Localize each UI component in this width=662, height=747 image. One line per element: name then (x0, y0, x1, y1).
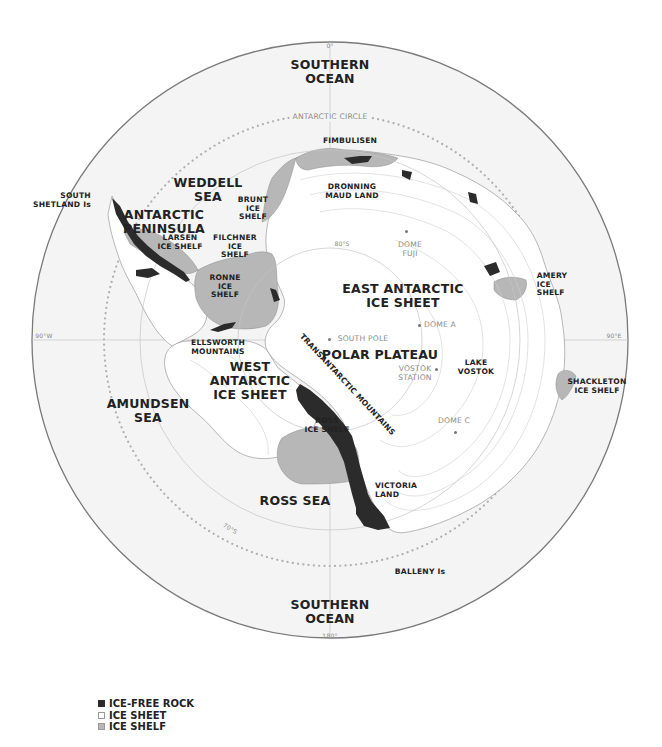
meridian-label-0: 0° (326, 43, 333, 50)
meridian-label-90w: 90°W (35, 333, 52, 340)
legend-item-ice-free-rock: ICE-FREE ROCK (98, 698, 194, 710)
antarctica-map (0, 0, 662, 680)
polar-plateau-label: POLAR PLATEAU (322, 348, 438, 362)
map-legend: ICE-FREE ROCK ICE SHEET ICE SHELF (98, 698, 194, 733)
ellsworth-mountains-label: ELLSWORTHMOUNTAINS (191, 339, 245, 356)
balleny-islands-label: BALLENY Is (395, 568, 445, 577)
south-pole-marker (328, 338, 331, 341)
southern-ocean-bottom-label: SOUTHERNOCEAN (291, 598, 370, 626)
legend-label: ICE SHELF (109, 721, 166, 732)
lake-vostok-label: LAKEVOSTOK (458, 359, 494, 376)
ross-ice-shelf-label: ROSSICE SHELF (304, 417, 349, 434)
filchner-ice-shelf-label: FILCHNERICESHELF (213, 234, 257, 260)
south-pole-label: SOUTH POLE (338, 335, 389, 344)
dome-c-marker (454, 431, 457, 434)
ross-sea-label: ROSS SEA (260, 494, 331, 508)
dome-fuji-label: DOMEFUJI (398, 241, 422, 258)
amundsen-sea-label: AMUNDSENSEA (107, 397, 190, 425)
fimbulisen-label: FIMBULISEN (323, 137, 377, 146)
legend-label: ICE SHEET (109, 710, 166, 721)
southern-ocean-top-label: SOUTHERNOCEAN (291, 58, 370, 86)
brunt-ice-shelf-label: BRUNTICESHELF (238, 196, 268, 222)
dome-c-label: DOME C (438, 417, 470, 426)
weddell-sea-label: WEDDELLSEA (174, 176, 243, 204)
east-antarctic-ice-sheet-label: EAST ANTARCTICICE SHEET (342, 282, 463, 310)
vostok-station-marker (435, 368, 438, 371)
ronne-ice-shelf-label: RONNEICESHELF (209, 274, 240, 300)
legend-item-ice-shelf: ICE SHELF (98, 721, 194, 733)
legend-item-ice-sheet: ICE SHEET (98, 710, 194, 722)
dome-fuji-marker (405, 230, 408, 233)
amery-ice-shelf-label: AMERYICESHELF (537, 272, 568, 298)
ice-sheet-swatch (98, 712, 105, 719)
latitude-label-80: 80°S (334, 241, 349, 248)
vostok-station-label: VOSTOKSTATION (398, 365, 431, 382)
dome-a-label: DOME A (424, 321, 456, 330)
ice-free-rock-swatch (98, 700, 105, 707)
meridian-label-90e: 90°E (606, 333, 621, 340)
south-shetland-label: SOUTHSHETLAND Is (33, 192, 91, 209)
larsen-ice-shelf-label: LARSENICE SHELF (157, 234, 202, 251)
ice-shelf-swatch (98, 723, 105, 730)
dronning-maud-land-label: DRONNINGMAUD LAND (325, 183, 379, 200)
shackleton-ice-shelf-label: SHACKLETONICE SHELF (567, 378, 626, 395)
west-antarctic-ice-sheet-label: WESTANTARCTICICE SHEET (210, 360, 290, 402)
legend-label: ICE-FREE ROCK (109, 698, 194, 709)
meridian-label-180: 180° (322, 633, 337, 640)
victoria-land-label: VICTORIALAND (375, 482, 417, 499)
antarctic-circle-label: ANTARCTIC CIRCLE (290, 113, 371, 122)
dome-a-marker (418, 324, 421, 327)
